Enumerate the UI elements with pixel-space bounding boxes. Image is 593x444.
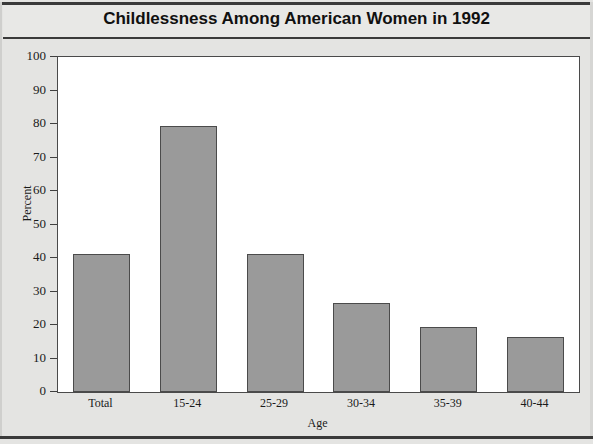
title-band: Childlessness Among American Women in 19… [3,5,590,37]
y-axis-tick-label: 20 [0,316,46,332]
bars-container [58,57,579,392]
y-axis-tick [50,123,57,124]
y-axis-tick [50,157,57,158]
plot-area [57,56,580,393]
y-axis-tick [50,358,57,359]
x-axis-tick-label: 30-34 [318,396,405,411]
x-axis-tick-label: 40-44 [491,396,578,411]
y-axis-tick-label: 90 [0,82,46,98]
y-axis-tick-label: 80 [0,115,46,131]
x-axis-title: Age [57,416,578,431]
y-axis-tick [50,391,57,392]
x-axis-tick-label: Total [57,396,144,411]
x-axis-tick-label: 15-24 [144,396,231,411]
bar [73,254,130,392]
y-axis-tick-label: 70 [0,149,46,165]
bar [160,126,217,392]
y-axis-tick-label: 100 [0,48,46,64]
title-underline-rule [3,37,590,39]
y-axis-tick-label: 60 [0,182,46,198]
bar [420,327,477,392]
y-axis-tick [50,291,57,292]
x-axis-tick-label: 25-29 [231,396,318,411]
y-axis-tick [50,190,57,191]
y-axis-tick [50,324,57,325]
bar [507,337,564,392]
x-axis-tick-label: 35-39 [404,396,491,411]
y-axis-tick [50,90,57,91]
chart-figure: Childlessness Among American Women in 19… [0,0,593,444]
chart-title: Childlessness Among American Women in 19… [3,9,590,29]
figure-bottom-rule [0,436,593,439]
bar [333,303,390,392]
bar [247,254,304,392]
y-axis-tick-label: 40 [0,249,46,265]
y-axis-tick-label: 30 [0,283,46,299]
y-axis-tick-label: 0 [0,383,46,399]
y-axis-tick [50,56,57,57]
y-axis-tick [50,257,57,258]
y-axis-tick-label: 10 [0,350,46,366]
y-axis-tick-label: 50 [0,216,46,232]
y-axis-tick [50,224,57,225]
